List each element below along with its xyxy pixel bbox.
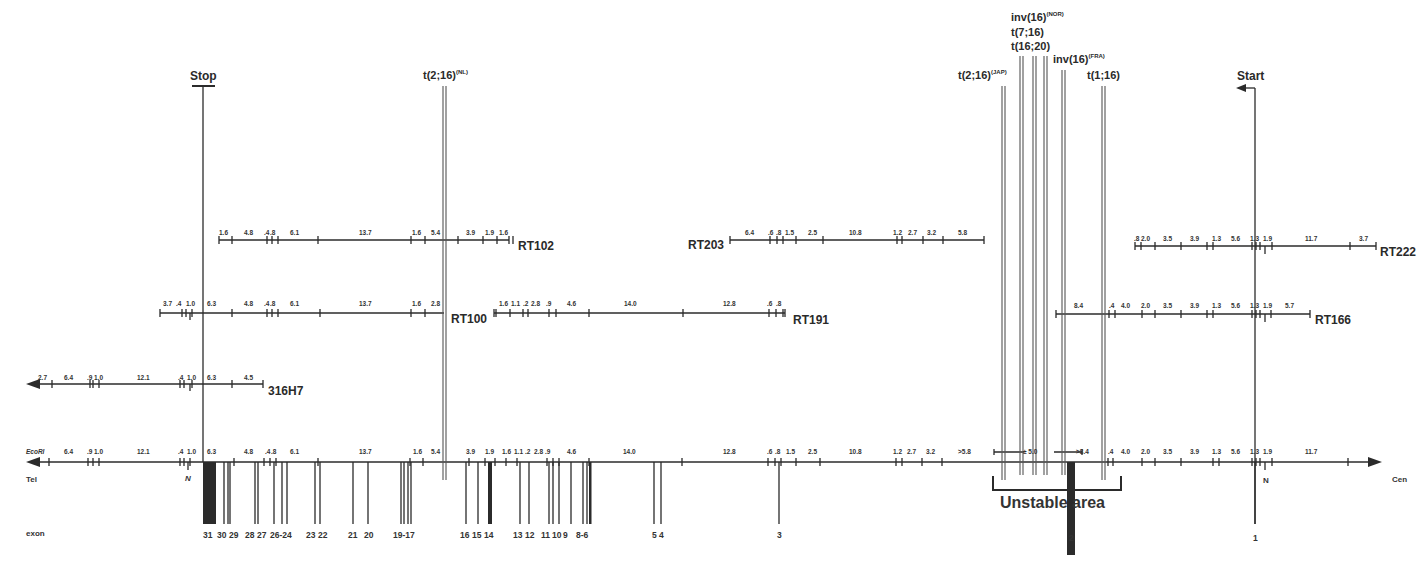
clone-rt100-label: RT100 [451,312,487,326]
clone-rt203-label: RT203 [688,238,724,252]
exon-5: 5 [652,530,657,540]
breakpoint-nor-label: inv(16)(NOR) [1011,11,1064,23]
exon-11: 11 [541,530,550,540]
enzyme-label: EcoRI [26,448,44,455]
start-label: Start [1237,69,1264,83]
cen-label: Cen [1392,475,1407,484]
exon-label: exon [26,529,45,538]
breakpoint-fra-line [1062,70,1065,475]
exon-21: 21 [348,530,357,540]
clone-rt222-label: RT222 [1380,245,1416,259]
exon-22: 22 [318,530,327,540]
cen-arrow-icon [1368,457,1382,467]
exon-16: 16 [460,530,469,540]
clone-rt166-label: RT166 [1315,313,1351,327]
exon-30: 30 [217,530,226,540]
n-marker-left: N [185,474,191,483]
exon-27: 27 [257,530,266,540]
exon-1: 1 [1253,533,1258,543]
exon-15: 15 [472,530,481,540]
exon-2: 2 [1069,533,1074,543]
clone-rt191-label: RT191 [793,313,829,327]
map-graphics [0,0,1427,563]
breakpoint-t1620-line [1044,56,1047,475]
exon-19-17: 19-17 [393,530,415,540]
breakpoint-nl-line [443,86,446,480]
exon-28: 28 [245,530,254,540]
restriction-map-diagram: EcoRI Tel Cen exon N N ± 5.0 Unstable ar… [0,0,1427,563]
exon-20: 20 [364,530,373,540]
exon-3: 3 [777,530,782,540]
plusminus-label: ± 5.0 [1023,448,1037,455]
exon-14: 14 [484,530,493,540]
breakpoint-fra-label: inv(16)(FRA) [1053,53,1105,65]
breakpoint-jap-label: t(2;16)(JAP) [958,69,1007,81]
breakpoint-t116-line [1102,86,1105,480]
n-marker-right: N [1263,476,1269,485]
start-arrow-icon [1236,84,1246,92]
exon-26-24: 26-24 [270,530,292,540]
clone-316h7-label: 316H7 [268,384,303,398]
exon-9: 9 [563,530,568,540]
exon-14-bar [488,462,492,524]
exon-13: 13 [513,530,522,540]
stop-label: Stop [190,69,217,83]
tel-label: Tel [26,475,37,484]
exon-31: 31 [203,530,212,540]
breakpoint-t1620-label: t(16;20) [1011,40,1050,52]
clone-rt102-label: RT102 [518,239,554,253]
exon-8-6: 8-6 [576,530,588,540]
breakpoint-t116-label: t(1;16) [1087,69,1120,81]
breakpoint-t7-line [1033,56,1036,475]
breakpoint-jap-line [1002,86,1005,480]
exon-31-bar [203,462,216,524]
exon-23: 23 [306,530,315,540]
breakpoint-nor-line [1020,56,1023,475]
exon-10: 10 [552,530,561,540]
breakpoint-t7-label: t(7;16) [1011,26,1044,38]
exon-4: 4 [659,530,664,540]
exon-12: 12 [525,530,534,540]
exon-29: 29 [229,530,238,540]
tel-arrow-icon [26,457,40,467]
unstable-area-label: Unstable area [1000,494,1105,512]
breakpoint-nl-label: t(2;16)(NL) [423,69,468,81]
